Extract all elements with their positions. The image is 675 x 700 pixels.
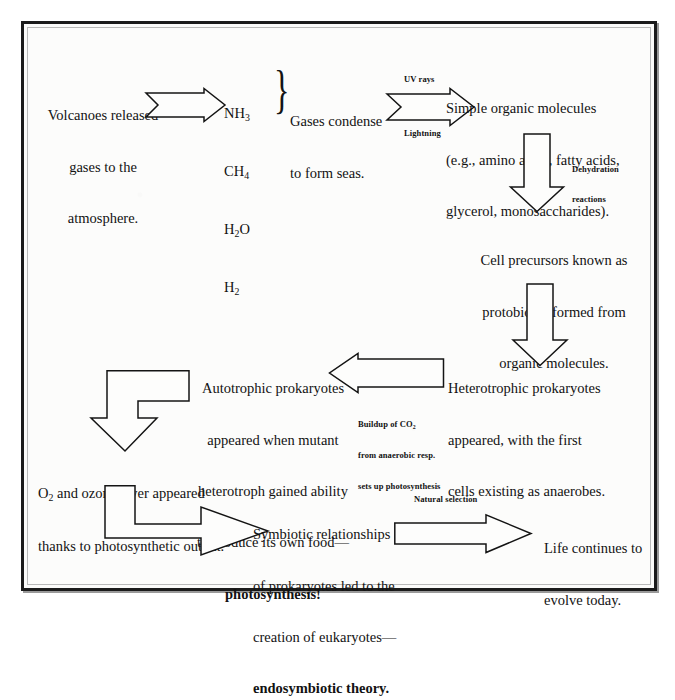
node-volcanoes-line2: gases to the xyxy=(38,159,168,176)
arrow-volcanoes-to-gases xyxy=(146,88,226,122)
label-dehydration-line1: Dehydration xyxy=(572,164,619,174)
node-gases-condense: Gases condense to form seas. xyxy=(290,79,382,216)
label-natural-selection: Natural selection xyxy=(414,494,477,504)
node-symbiotic: Symbiotic relationships of prokaryotes l… xyxy=(253,492,396,700)
label-uv-rays: UV rays xyxy=(404,74,435,84)
gas-brace: } xyxy=(274,64,289,116)
label-dehydration: Dehydration reactions xyxy=(572,144,619,224)
node-symbiotic-line1: Symbiotic relationships xyxy=(253,526,396,543)
arrow-organic-to-protobionts xyxy=(510,134,564,212)
node-autotrophic-line1: Autotrophic prokaryotes xyxy=(167,380,379,397)
label-lightning: Lightning xyxy=(404,128,441,138)
page-frame-inner: Volcanoes released gases to the atmosphe… xyxy=(27,27,651,585)
node-gas-list: NH3 CH4 H2O H2 xyxy=(224,66,278,337)
node-symbiotic-line2: of prokaryotes led to the xyxy=(253,578,396,595)
gas-nh3: NH3 xyxy=(224,104,278,125)
arrow-symbiotic-to-life xyxy=(394,514,532,554)
node-cell-precursors-line1: Cell precursors known as xyxy=(449,252,659,269)
gas-h2: H2 xyxy=(224,278,278,299)
node-autotrophic-line2: appeared when mutant xyxy=(167,432,379,449)
node-symbiotic-theory: endosymbiotic theory. xyxy=(253,680,396,697)
node-simple-organic-line1: Simple organic molecules xyxy=(446,100,620,117)
arrow-autotroph-to-ozone xyxy=(90,370,190,452)
arrow-ozone-to-symbiotic xyxy=(104,485,269,557)
node-heterotrophic-line1: Heterotrophic prokaryotes xyxy=(448,380,605,397)
gas-h2o: H2O xyxy=(224,220,278,241)
node-heterotrophic-line2: appeared, with the first xyxy=(448,432,605,449)
node-life-evolves-line2: evolve today. xyxy=(544,592,642,609)
label-dehydration-line2: reactions xyxy=(572,194,619,204)
node-symbiotic-line3: creation of eukaryotes— xyxy=(253,629,396,646)
node-life-evolves-line1: Life continues to xyxy=(544,540,642,557)
page-frame: Volcanoes released gases to the atmosphe… xyxy=(21,21,657,591)
gas-ch4: CH4 xyxy=(224,162,278,183)
node-life-evolves: Life continues to evolve today. xyxy=(544,506,642,643)
node-volcanoes-line3: atmosphere. xyxy=(38,210,168,227)
node-condense-line1: Gases condense xyxy=(290,113,382,130)
node-condense-line2: to form seas. xyxy=(290,165,382,182)
